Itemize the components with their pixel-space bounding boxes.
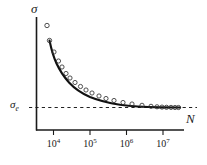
sigma-subscript: e — [15, 104, 18, 113]
chart-plot-area — [0, 0, 207, 165]
tick-exponent: 4 — [57, 137, 61, 145]
data-point — [64, 71, 68, 75]
data-point — [104, 96, 108, 100]
x-tick-label-1e6: 106 — [120, 138, 134, 149]
data-point — [97, 94, 101, 98]
data-point — [60, 65, 64, 69]
tick-mantissa: 10 — [83, 138, 93, 149]
tick-exponent: 6 — [130, 137, 134, 145]
x-tick-label-1e7: 107 — [156, 138, 170, 149]
data-point — [73, 80, 77, 84]
sn-fitted-curve — [50, 41, 181, 108]
data-point — [112, 98, 116, 102]
data-point — [121, 100, 125, 104]
tick-exponent: 5 — [93, 137, 97, 145]
data-point-markers — [47, 38, 180, 109]
data-point — [90, 91, 94, 95]
sn-curve-figure: σ N σe 104 105 106 107 — [0, 0, 207, 165]
y-axis-title: σ — [31, 2, 37, 15]
x-axis-title: N — [186, 112, 195, 125]
data-point — [84, 88, 88, 92]
data-point — [68, 76, 72, 80]
tick-mantissa: 10 — [47, 138, 57, 149]
outlier-data-point — [45, 23, 49, 27]
x-tick-label-1e4: 104 — [47, 138, 61, 149]
tick-mantissa: 10 — [120, 138, 130, 149]
data-point — [78, 84, 82, 88]
tick-mantissa: 10 — [156, 138, 166, 149]
tick-exponent: 7 — [166, 137, 170, 145]
y-tick-label-endurance-limit: σe — [10, 99, 19, 113]
data-point — [56, 59, 60, 63]
x-tick-label-1e5: 105 — [83, 138, 97, 149]
